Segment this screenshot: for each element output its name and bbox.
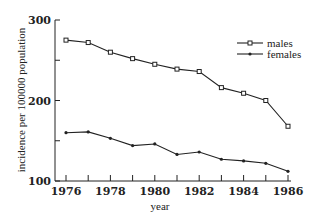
- square-marker-icon: [242, 91, 246, 95]
- series-females: [64, 130, 289, 173]
- square-marker-icon: [153, 62, 157, 66]
- dot-marker-icon: [242, 159, 245, 162]
- square-marker-icon: [175, 67, 179, 71]
- square-marker-icon: [64, 38, 68, 42]
- square-marker-icon: [286, 124, 290, 128]
- x-tick-label: 1986: [273, 185, 304, 198]
- square-marker-icon: [248, 41, 252, 45]
- legend-label-females: females: [267, 48, 301, 60]
- series-males: [64, 38, 290, 128]
- dot-marker-icon: [248, 52, 251, 55]
- y-axis-label: incidence per 100000 population: [15, 27, 27, 172]
- y-tick-label: 100: [28, 175, 51, 188]
- dot-marker-icon: [286, 170, 289, 173]
- dot-marker-icon: [153, 142, 156, 145]
- legend: malesfemales: [237, 37, 301, 60]
- square-marker-icon: [108, 50, 112, 54]
- dot-marker-icon: [198, 150, 201, 153]
- x-tick-label: 1978: [95, 185, 126, 198]
- square-marker-icon: [131, 57, 135, 61]
- square-marker-icon: [219, 86, 223, 90]
- x-tick-label: 1980: [139, 185, 170, 198]
- x-tick-label: 1984: [228, 185, 259, 198]
- x-tick-label: 1982: [184, 185, 215, 198]
- x-tick-label: 1976: [51, 185, 82, 198]
- square-marker-icon: [197, 70, 201, 74]
- dot-marker-icon: [64, 131, 67, 134]
- dot-marker-icon: [264, 162, 267, 165]
- square-marker-icon: [264, 99, 268, 103]
- x-axis-label: year: [151, 200, 170, 212]
- series-line: [66, 40, 288, 126]
- line-chart: 100200300 197619781980198219841986 year …: [0, 0, 318, 219]
- x-ticks: 197619781980198219841986: [51, 175, 304, 198]
- y-tick-label: 200: [28, 95, 51, 108]
- series-line: [66, 132, 288, 171]
- y-tick-label: 300: [28, 14, 51, 27]
- dot-marker-icon: [109, 137, 112, 140]
- series-layer: [64, 38, 290, 173]
- dot-marker-icon: [87, 130, 90, 133]
- dot-marker-icon: [220, 158, 223, 161]
- dot-marker-icon: [131, 144, 134, 147]
- dot-marker-icon: [175, 153, 178, 156]
- square-marker-icon: [86, 41, 90, 45]
